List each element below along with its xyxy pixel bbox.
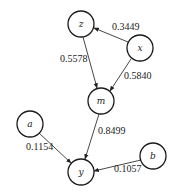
node-y: y	[68, 159, 94, 185]
svg-text:x: x	[137, 43, 142, 53]
path-diagram: 0.3449 0.5578 0.5840 0.8499 0.1154 0.105…	[0, 0, 181, 194]
node-x: x	[127, 35, 153, 61]
node-z: z	[68, 11, 94, 37]
svg-text:z: z	[78, 19, 84, 29]
svg-text:a: a	[27, 119, 32, 129]
edge-label-b-y: 0.1057	[114, 163, 142, 174]
node-a: a	[17, 111, 43, 137]
edge-label-a-y: 0.1154	[26, 141, 53, 152]
edge-label-z-m: 0.5578	[60, 53, 88, 64]
svg-text:y: y	[77, 167, 84, 177]
edge-label-m-y: 0.8499	[98, 125, 126, 136]
edge-label-x-z: 0.3449	[112, 21, 140, 32]
svg-text:b: b	[150, 151, 156, 161]
edge-label-x-m: 0.5840	[124, 70, 152, 81]
edge-m-y	[85, 114, 99, 159]
svg-text:m: m	[97, 96, 106, 106]
node-b: b	[140, 143, 166, 169]
node-m: m	[88, 88, 114, 114]
